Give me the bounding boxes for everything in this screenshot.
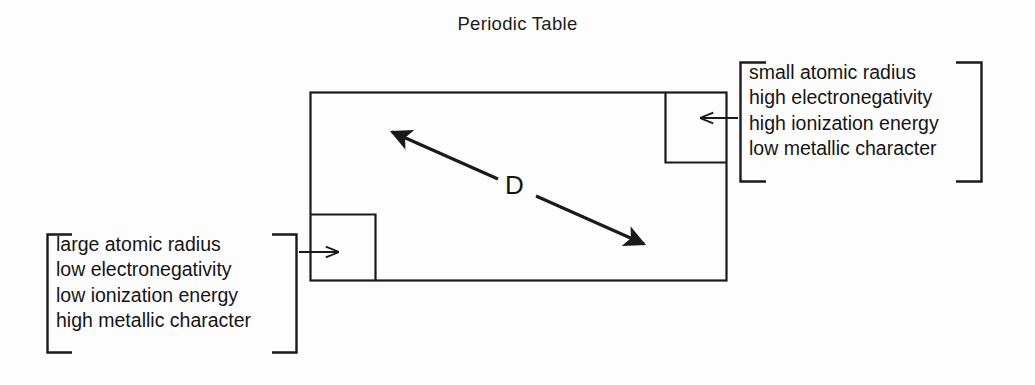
right-callout-bracket-close [956,63,982,182]
left-callout-bracket-close [272,235,297,353]
left-callout-line-2: low electronegativity [56,257,251,282]
right-trend-callout: small atomic radius high electronegativi… [749,60,939,162]
left-trend-callout: large atomic radius low electronegativit… [56,232,251,334]
upper-right-block-outline [666,93,727,163]
diagonal-arrow-upper-left [392,132,498,179]
left-callout-line-1: large atomic radius [56,232,251,257]
right-callout-line-4: low metallic character [749,136,939,161]
right-callout-line-3: high ionization energy [749,111,939,136]
diagonal-trend-label: D [505,170,524,201]
diagonal-arrow-lower-right [536,196,644,244]
left-callout-line-3: low ionization energy [56,283,251,308]
right-callout-line-1: small atomic radius [749,60,939,85]
lower-left-block-outline [311,215,376,281]
periodic-table-trends-figure: Periodic Table [0,0,1035,385]
right-callout-line-2: high electronegativity [749,85,939,110]
left-callout-line-4: high metallic character [56,308,251,333]
